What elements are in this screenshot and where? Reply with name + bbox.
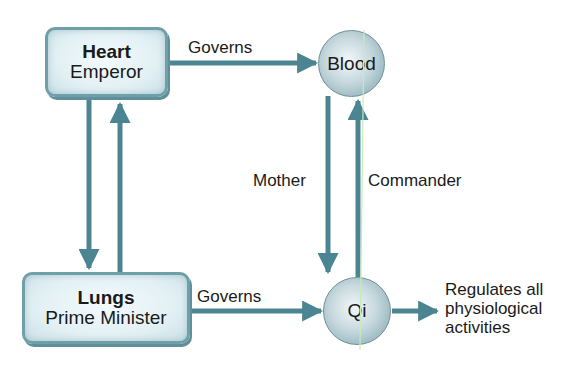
edge-label-qi-blood: Commander <box>368 171 462 191</box>
qi-node: Qi <box>323 277 391 345</box>
lungs-title: Lungs <box>78 288 135 308</box>
blood-node: Blood <box>318 30 385 97</box>
edge-label-blood-qi: Mother <box>253 171 306 191</box>
blood-label: Blood <box>327 53 376 75</box>
qi-label: Qi <box>348 300 367 322</box>
heart-title: Heart <box>82 42 131 62</box>
edge-label-heart-blood: Governs <box>188 38 252 58</box>
heart-subtitle: Emperor <box>70 62 143 82</box>
edge-label-lungs-qi: Governs <box>197 287 261 307</box>
lungs-subtitle: Prime Minister <box>45 308 166 328</box>
lungs-node: Lungs Prime Minister <box>22 272 190 344</box>
heart-node: Heart Emperor <box>45 27 168 97</box>
qi-output-line-3: activities <box>445 318 543 337</box>
qi-output-line-2: physiological <box>445 299 543 318</box>
qi-output-text: Regulates all physiological activities <box>445 280 543 337</box>
qi-output-line-1: Regulates all <box>445 280 543 299</box>
